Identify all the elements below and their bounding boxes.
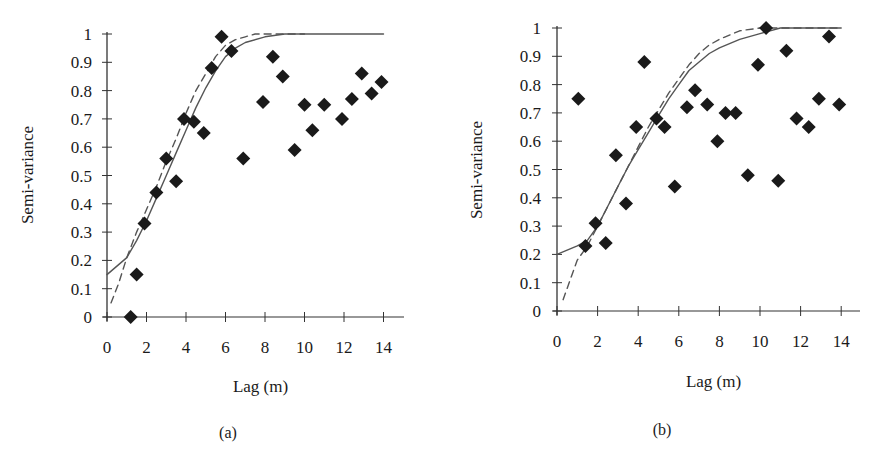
data-point-diamond xyxy=(365,86,379,100)
y-tick-label: 1 xyxy=(533,19,542,38)
x-axis-title: Lag (m) xyxy=(686,372,741,391)
data-point-diamond xyxy=(822,29,836,43)
data-point-diamond xyxy=(802,120,816,134)
data-point-diamond xyxy=(790,112,804,126)
x-tick-label: 12 xyxy=(336,338,353,357)
y-tick-label: 0.8 xyxy=(71,82,92,101)
data-point-diamond xyxy=(345,92,359,106)
y-tick-label: 0.2 xyxy=(520,245,541,264)
y-axis-title: Semi-variance xyxy=(467,121,486,219)
y-tick-label: 0.9 xyxy=(71,53,92,72)
data-point-diamond xyxy=(589,216,603,230)
x-tick-label: 8 xyxy=(715,332,724,351)
y-tick-label: 0.3 xyxy=(71,223,92,242)
data-point-diamond xyxy=(771,174,785,188)
x-tick-label: 4 xyxy=(634,332,643,351)
data-point-diamond xyxy=(266,50,280,64)
data-point-diamond xyxy=(751,58,765,72)
x-tick-label: 0 xyxy=(553,332,562,351)
data-point-diamond xyxy=(288,143,302,157)
x-tick-label: 4 xyxy=(182,338,191,357)
data-point-diamond xyxy=(619,196,633,210)
y-tick-label: 0.2 xyxy=(71,251,92,270)
data-point-diamond xyxy=(169,174,183,188)
data-point-diamond xyxy=(832,97,846,111)
data-point-diamond xyxy=(688,83,702,97)
y-tick-label: 0.5 xyxy=(520,161,541,180)
x-tick-label: 10 xyxy=(752,332,769,351)
x-tick-label: 6 xyxy=(221,338,230,357)
data-point-diamond xyxy=(599,236,613,250)
data-point-diamond xyxy=(124,310,138,324)
data-point-diamond xyxy=(298,98,312,112)
y-axis-title: Semi-variance xyxy=(18,126,37,224)
data-point-diamond xyxy=(571,92,585,106)
data-point-diamond xyxy=(276,69,290,83)
x-tick-label: 0 xyxy=(103,338,112,357)
data-point-diamond xyxy=(700,97,714,111)
x-axis-title: Lag (m) xyxy=(233,377,288,396)
data-point-diamond xyxy=(779,44,793,58)
semivariogram-chart-b: 00.10.20.30.40.50.60.70.80.9102468101214… xyxy=(436,0,872,460)
data-point-diamond xyxy=(629,120,643,134)
data-point-diamond xyxy=(609,148,623,162)
y-tick-label: 0.4 xyxy=(71,195,93,214)
data-point-diamond xyxy=(205,61,219,75)
panel-caption: (a) xyxy=(219,424,237,442)
data-point-diamond xyxy=(305,123,319,137)
data-point-diamond xyxy=(668,179,682,193)
panel-caption: (b) xyxy=(653,421,672,439)
semivariogram-chart-a: 00.10.20.30.40.50.60.70.80.9102468101214… xyxy=(0,0,436,460)
x-tick-label: 14 xyxy=(833,332,851,351)
x-tick-label: 8 xyxy=(261,338,270,357)
data-point-diamond xyxy=(197,126,211,140)
y-tick-label: 0.9 xyxy=(520,47,541,66)
data-point-diamond xyxy=(187,115,201,129)
data-point-diamond xyxy=(729,106,743,120)
y-tick-label: 0.1 xyxy=(71,280,92,299)
x-tick-label: 14 xyxy=(375,338,393,357)
data-point-diamond xyxy=(215,30,229,44)
y-tick-label: 0.8 xyxy=(520,76,541,95)
data-point-diamond xyxy=(236,152,250,166)
dashed-model-curve xyxy=(563,28,841,300)
x-tick-label: 2 xyxy=(142,338,151,357)
y-tick-label: 0.3 xyxy=(520,217,541,236)
data-point-diamond xyxy=(317,98,331,112)
x-tick-label: 6 xyxy=(675,332,684,351)
x-tick-label: 2 xyxy=(593,332,602,351)
y-tick-label: 0.7 xyxy=(71,110,93,129)
data-point-diamond xyxy=(637,55,651,69)
data-point-diamond xyxy=(130,268,144,282)
y-tick-label: 0.4 xyxy=(520,189,542,208)
x-tick-label: 12 xyxy=(792,332,809,351)
chart-panel-a: 00.10.20.30.40.50.60.70.80.9102468101214… xyxy=(0,0,436,460)
y-tick-label: 0.6 xyxy=(71,138,92,157)
y-tick-label: 0.6 xyxy=(520,132,541,151)
data-point-diamond xyxy=(335,112,349,126)
data-point-diamond xyxy=(138,217,152,231)
dashed-model-curve xyxy=(111,34,305,303)
y-tick-label: 0 xyxy=(533,302,542,321)
data-point-diamond xyxy=(812,92,826,106)
y-tick-label: 0.1 xyxy=(520,274,541,293)
data-point-diamond xyxy=(680,100,694,114)
data-point-diamond xyxy=(710,134,724,148)
data-point-diamond xyxy=(375,75,389,89)
data-point-diamond xyxy=(355,67,369,81)
y-tick-label: 1 xyxy=(84,25,93,44)
x-tick-label: 10 xyxy=(296,338,313,357)
y-tick-label: 0 xyxy=(84,308,93,327)
data-point-diamond xyxy=(256,95,270,109)
chart-panel-b: 00.10.20.30.40.50.60.70.80.9102468101214… xyxy=(436,0,872,460)
y-tick-label: 0.5 xyxy=(71,167,92,186)
y-tick-label: 0.7 xyxy=(520,104,542,123)
data-point-diamond xyxy=(741,168,755,182)
